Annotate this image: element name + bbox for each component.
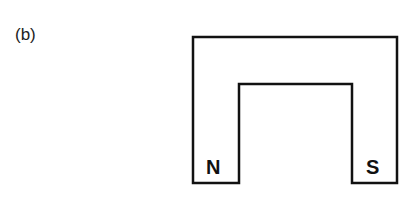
south-pole-label: S [366,156,379,178]
horseshoe-magnet-diagram: N S [0,0,417,215]
north-pole-label: N [206,156,220,178]
